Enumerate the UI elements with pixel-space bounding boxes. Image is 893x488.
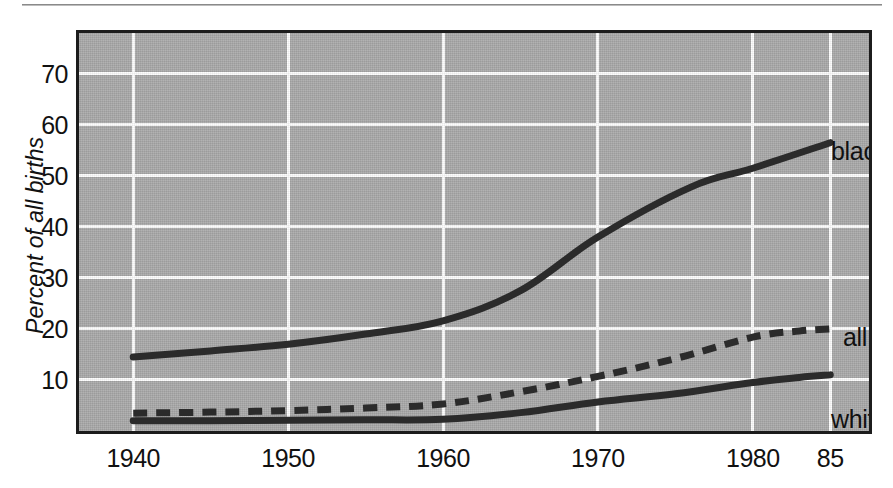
page-top-rule [22, 4, 882, 6]
y-tick-label: 20 [8, 316, 68, 341]
x-tick-label: 1970 [571, 446, 625, 471]
x-tick-label: 85 [817, 446, 844, 471]
y-tick-label: 50 [8, 163, 68, 188]
series-label-all: all [843, 325, 867, 350]
chart-figure: Percent of all births 10203040506070 bla… [0, 0, 893, 488]
plot-inner: black all white [79, 33, 869, 431]
series-line-black [133, 143, 830, 357]
x-tick-label: 1980 [726, 446, 780, 471]
series-label-black: black [831, 139, 869, 164]
y-tick-label: 60 [8, 112, 68, 137]
series-label-white: white [831, 407, 869, 431]
y-tick-label: 70 [8, 61, 68, 86]
y-tick-label: 30 [8, 265, 68, 290]
series-line-all [133, 329, 830, 413]
plot-area: black all white [76, 30, 872, 434]
x-tick-label: 1960 [416, 446, 470, 471]
y-axis-tick-labels: 10203040506070 [0, 30, 68, 434]
series-layer [79, 33, 869, 431]
y-tick-label: 40 [8, 214, 68, 239]
y-tick-label: 10 [8, 367, 68, 392]
x-tick-label: 1950 [261, 446, 315, 471]
x-tick-label: 1940 [106, 446, 160, 471]
x-axis-tick-labels: 1940195019601970198085 [0, 446, 893, 480]
